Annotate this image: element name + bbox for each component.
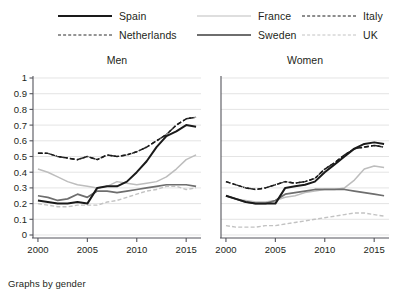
x-tick-label: 2000 xyxy=(215,244,236,255)
legend-key-spain-line-icon xyxy=(58,11,112,21)
legend-item-spain: Spain xyxy=(58,8,146,24)
x-tick-label: 2005 xyxy=(77,244,98,255)
y-tick-label: 0.3 xyxy=(14,182,27,193)
series-line-uk xyxy=(226,213,384,227)
legend-label-netherlands: Netherlands xyxy=(119,30,177,41)
legend-label-italy: Italy xyxy=(363,11,383,22)
legend-item-france: France xyxy=(197,8,291,24)
axes-group xyxy=(30,76,390,242)
series-line-italy xyxy=(38,117,196,159)
x-tick-label: 2015 xyxy=(176,244,197,255)
y-tick-labels: 00.10.20.30.40.50.60.70.80.91 xyxy=(14,72,27,240)
figure-caption: Graphs by gender xyxy=(8,278,86,289)
chart-svg: MenWomen 00.10.20.30.40.50.60.70.80.91 2… xyxy=(0,50,408,275)
panel-title-group: MenWomen xyxy=(107,54,323,66)
legend-key-italy-line-icon xyxy=(302,11,356,21)
y-tick-label: 0.6 xyxy=(14,135,27,146)
legend-item-uk: UK xyxy=(302,27,378,43)
series-line-netherlands xyxy=(226,146,384,190)
legend-key-netherlands-line-icon xyxy=(58,30,112,40)
y-tick-label: 0.5 xyxy=(14,151,27,162)
y-tick-label: 0.9 xyxy=(14,88,27,99)
panel-title: Men xyxy=(107,54,128,66)
y-tick-label: 0.2 xyxy=(14,198,27,209)
y-tick-label: 0 xyxy=(22,229,27,240)
y-tick-label: 0.7 xyxy=(14,120,27,131)
y-tick-label: 1 xyxy=(22,72,27,83)
x-tick-label: 2010 xyxy=(126,244,147,255)
series-line-france xyxy=(38,155,196,188)
panel-title: Women xyxy=(287,54,323,66)
y-tick-label: 0.8 xyxy=(14,104,27,115)
x-tick-labels: 20002005201020152000200520102015 xyxy=(27,244,384,255)
chart-plot-area: MenWomen 00.10.20.30.40.50.60.70.80.91 2… xyxy=(0,50,408,275)
y-tick-label: 0.4 xyxy=(14,167,27,178)
legend-key-uk-line-icon xyxy=(302,30,356,40)
legend-key-france-line-icon xyxy=(197,11,251,21)
x-tick-label: 2015 xyxy=(364,244,385,255)
series-line-netherlands xyxy=(38,117,196,159)
legend-label-sweden: Sweden xyxy=(258,30,297,41)
legend-label-france: France xyxy=(258,11,291,22)
legend-item-sweden: Sweden xyxy=(197,27,297,43)
y-tick-label: 0.1 xyxy=(14,214,27,225)
x-tick-label: 2010 xyxy=(314,244,335,255)
legend-label-uk: UK xyxy=(363,30,378,41)
legend-item-netherlands: Netherlands xyxy=(58,27,177,43)
legend-item-italy: Italy xyxy=(302,8,383,24)
series-line-italy xyxy=(226,146,384,190)
x-tick-label: 2000 xyxy=(27,244,48,255)
x-tick-label: 2005 xyxy=(265,244,286,255)
legend-label-spain: Spain xyxy=(119,11,146,22)
legend-key-sweden-line-icon xyxy=(197,30,251,40)
chart-figure: Spain France Italy Netherlands Sweden UK… xyxy=(0,0,408,299)
chart-legend: Spain France Italy Netherlands Sweden UK xyxy=(0,0,408,50)
